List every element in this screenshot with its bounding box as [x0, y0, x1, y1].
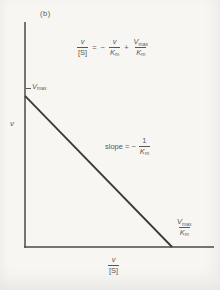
minus-sign: −: [101, 43, 105, 52]
vmax-subscript: max: [139, 41, 148, 47]
vmax-symbol: V: [134, 37, 139, 46]
slope-fraction: 1 Km: [139, 137, 150, 156]
equation-term2-fraction: Vmax Km: [133, 38, 149, 57]
equation-lhs-denominator: [S]: [77, 47, 88, 58]
x-intercept-denominator: Km: [179, 227, 190, 238]
x-axis-label-denominator: [S]: [108, 265, 119, 276]
x-axis-label-numerator: v: [111, 256, 117, 265]
equation-lhs-fraction: v [S]: [77, 38, 88, 57]
plus-sign: +: [124, 43, 128, 52]
km-subscript: m: [141, 51, 145, 57]
y-axis-label: v: [10, 119, 14, 128]
equation-term1-denominator: Km: [109, 47, 120, 58]
data-line: [25, 96, 172, 247]
panel-label: (b): [40, 9, 51, 18]
y-intercept-subscript: max: [37, 85, 46, 91]
x-intercept-numerator: Vmax: [176, 218, 192, 227]
x-intercept-label: Vmax Km: [176, 218, 192, 237]
equals-sign: =: [92, 43, 96, 52]
eadie-hofstee-figure: (b) v [S] = − v Km + Vmax Km v Vmax slop…: [0, 0, 220, 290]
slope-annotation: slope = − 1 Km: [105, 137, 150, 156]
x-axis-label: v [S]: [108, 256, 119, 275]
equation-term2-denominator: Km: [135, 47, 146, 58]
equation-term1-numerator: v: [112, 38, 118, 47]
rate-equation: v [S] = − v Km + Vmax Km: [77, 38, 149, 57]
slope-denominator: Km: [139, 146, 150, 157]
equation-term1-fraction: v Km: [109, 38, 120, 57]
equation-term2-numerator: Vmax: [133, 38, 149, 47]
equation-lhs-numerator: v: [80, 38, 86, 47]
vmax-subscript: max: [182, 221, 191, 227]
km-subscript: m: [185, 231, 189, 237]
km-subscript: m: [115, 51, 119, 57]
y-intercept-tick: [26, 88, 31, 89]
km-symbol: K: [180, 228, 185, 237]
km-subscript: m: [145, 150, 149, 156]
slope-text: slope = −: [105, 142, 136, 151]
y-intercept-label: Vmax: [26, 82, 46, 91]
slope-numerator: 1: [141, 137, 147, 146]
